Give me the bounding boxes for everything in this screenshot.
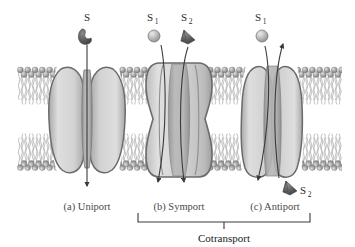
solute-S1-shape <box>148 30 160 42</box>
solute-label-S1-symport: S <box>147 11 153 23</box>
antiport-protein <box>241 66 302 177</box>
solute-label-S: S <box>84 11 90 23</box>
solute-label-S1-sub-antiport: 1 <box>263 17 267 26</box>
solute-label-S2-symport: S <box>181 11 187 23</box>
solute-S1-shape-antiport <box>256 30 268 42</box>
cotransport-label: Cotransport <box>198 232 250 244</box>
symport-protein <box>146 63 212 177</box>
membrane-transport-diagram: S S 1 S 2 S 1 S 2 (a) Uniport (b) Sympor… <box>0 0 355 247</box>
caption-symport: (b) Symport <box>153 201 204 213</box>
solute-label-S1-sub-symport: 1 <box>155 17 159 26</box>
solute-label-S2-antiport: S <box>300 184 306 196</box>
solute-label-S1-antiport: S <box>255 11 261 23</box>
caption-uniport: (a) Uniport <box>64 201 111 213</box>
solute-label-S2-sub-symport: 2 <box>189 17 193 26</box>
panel-captions: (a) Uniport (b) Symport (c) Antiport <box>64 201 300 213</box>
caption-antiport: (c) Antiport <box>250 201 299 213</box>
solute-label-S2-sub-antiport: 2 <box>308 190 312 199</box>
